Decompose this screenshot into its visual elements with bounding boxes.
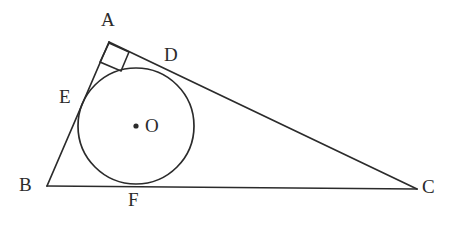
label-vertex-c: C xyxy=(422,177,435,196)
side-bc xyxy=(47,186,417,189)
label-point-d: D xyxy=(164,45,178,64)
circle-center-dot xyxy=(133,123,138,128)
triangle-abc xyxy=(47,42,417,189)
label-vertex-b: B xyxy=(19,175,32,194)
label-point-e: E xyxy=(59,87,71,106)
right-angle-mark-icon xyxy=(100,43,129,71)
label-vertex-a: A xyxy=(101,10,115,29)
figure-canvas: A D E O B F C xyxy=(0,0,450,227)
geometry-figure xyxy=(0,0,450,227)
label-center-o: O xyxy=(145,116,159,135)
label-point-f: F xyxy=(128,190,139,209)
side-ab xyxy=(47,42,109,186)
